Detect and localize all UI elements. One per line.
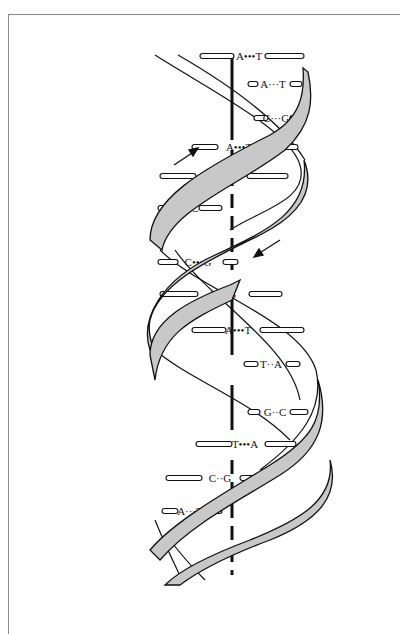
base-right-bar [290, 410, 308, 415]
base-right-bar [290, 82, 302, 87]
base-left-bar [196, 442, 232, 447]
base-left-bar [200, 54, 234, 59]
arrow-up-right-icon [174, 148, 198, 165]
base-right-bar [223, 260, 238, 265]
base-left-bar [158, 260, 178, 265]
base-left-bar [248, 82, 258, 87]
base-left-bar [166, 476, 202, 481]
base-pair-label: T··A [260, 358, 282, 370]
base-right-bar [286, 362, 300, 367]
base-pair-label: A···T [260, 78, 286, 90]
base-pair-label: G··C [264, 406, 287, 418]
base-right-bar [199, 206, 222, 211]
base-right-bar [249, 292, 282, 297]
base-pair: G··C [248, 406, 308, 418]
base-pair-label: C··G [209, 472, 232, 484]
base-pair: A•••T [192, 324, 304, 336]
base-left-bar [244, 362, 258, 367]
base-right-bar [265, 54, 304, 59]
base-pair: T•••A [196, 438, 296, 450]
base-pair: A···T [248, 78, 302, 90]
base-pair: T··A [244, 358, 300, 370]
base-left-bar [192, 328, 226, 333]
base-left-bar [160, 174, 196, 179]
base-pair-label: A•••T [236, 50, 262, 62]
base-left-bar [162, 509, 178, 514]
ribbon-segment-upper [150, 68, 311, 250]
base-pair: A•••T [200, 50, 304, 62]
base-right-bar [260, 328, 304, 333]
base-right-bar [247, 174, 288, 179]
arrow-down-left-icon [254, 240, 280, 257]
base-pair-label: C···G [263, 112, 289, 124]
base-right-bar [265, 442, 296, 447]
base-left-bar [248, 410, 260, 415]
ribbon-segment-lower [150, 380, 323, 560]
base-pair-label: A•••T [225, 324, 251, 336]
base-pair-label: T•••A [232, 438, 258, 450]
